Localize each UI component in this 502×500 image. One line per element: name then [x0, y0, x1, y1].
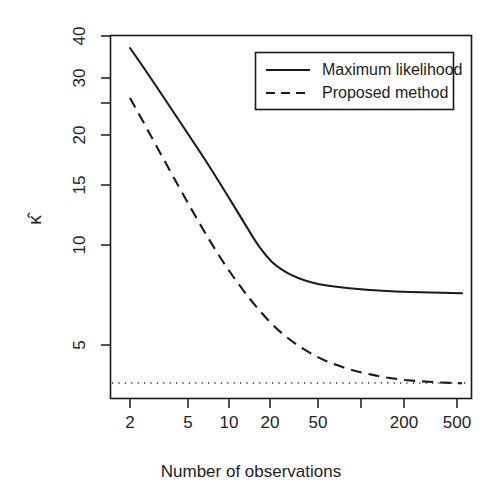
- series-line-proposed-method: [130, 98, 462, 383]
- y-tick-label-15: 15: [69, 165, 91, 205]
- y-axis-ticks: [101, 36, 110, 345]
- x-tick-label-50: 50: [298, 413, 338, 433]
- y-tick-label-5: 5: [69, 325, 91, 365]
- x-axis-title: Number of observations: [0, 462, 502, 482]
- x-tick-label-20: 20: [250, 413, 290, 433]
- x-axis-ticks: [130, 398, 457, 408]
- legend-label-maximum-likelihood: Maximum likelihood: [322, 61, 463, 79]
- legend-label-proposed-method: Proposed method: [322, 84, 448, 102]
- y-tick-label-40: 40: [69, 16, 91, 56]
- x-tick-label-500: 500: [437, 413, 477, 433]
- x-tick-label-5: 5: [168, 413, 208, 433]
- y-tick-label-30: 30: [69, 58, 91, 98]
- y-tick-label-20: 20: [69, 115, 91, 155]
- x-tick-label-200: 200: [384, 413, 424, 433]
- y-tick-label-10: 10: [69, 225, 91, 265]
- x-tick-label-10: 10: [209, 413, 249, 433]
- chart-figure: 40 30 20 15 10 5 2 5 10 20 50 200 500 κ̂…: [0, 0, 502, 500]
- y-axis-title: κ̂: [22, 198, 48, 242]
- x-tick-label-2: 2: [110, 413, 150, 433]
